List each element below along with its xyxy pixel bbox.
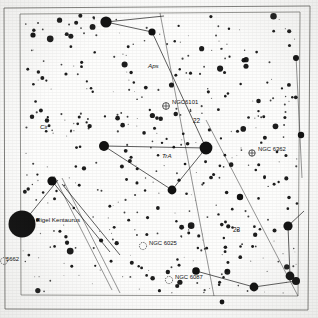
- field-star: [266, 81, 268, 83]
- bright-star: [30, 32, 35, 37]
- field-star: [47, 202, 48, 203]
- field-star: [108, 217, 109, 218]
- constellation-label-aps: Aps: [147, 62, 159, 69]
- bright-star: [283, 221, 292, 230]
- field-star: [277, 261, 279, 263]
- field-star: [23, 250, 24, 251]
- field-star: [224, 58, 226, 60]
- constellation-label-cir: Cir: [40, 123, 49, 130]
- field-star: [110, 260, 113, 263]
- field-star: [166, 43, 168, 45]
- field-star: [211, 50, 212, 51]
- field-star: [120, 165, 124, 169]
- field-star: [87, 124, 91, 128]
- field-star: [211, 98, 212, 99]
- field-star: [217, 25, 219, 27]
- field-star: [78, 184, 81, 187]
- field-star: [115, 116, 120, 121]
- field-star: [23, 190, 27, 194]
- field-star: [260, 141, 262, 143]
- field-star: [55, 190, 57, 192]
- dso-label-ngc6025: NGC 6025: [149, 240, 178, 246]
- field-star: [125, 178, 128, 181]
- dso-label-ngc5662: 5662: [6, 256, 19, 262]
- field-star: [124, 149, 128, 153]
- field-star: [45, 79, 47, 81]
- field-star: [273, 183, 276, 186]
- field-star: [122, 62, 128, 68]
- field-star: [270, 13, 276, 19]
- field-star: [40, 233, 41, 234]
- sky-map-canvas: ApsTrACirNGC6101NGC 6362NGC 6025NGC 6087…: [0, 0, 318, 318]
- field-star: [226, 44, 227, 45]
- field-star: [68, 24, 70, 26]
- field-star: [26, 187, 29, 190]
- field-star: [130, 261, 134, 265]
- field-star: [128, 89, 130, 91]
- field-star: [73, 130, 74, 131]
- field-star: [67, 248, 74, 255]
- field-star: [128, 124, 129, 125]
- field-star: [120, 123, 125, 128]
- field-star: [53, 245, 56, 248]
- field-star: [189, 210, 191, 212]
- field-star: [32, 28, 35, 31]
- field-star: [70, 265, 73, 268]
- field-star: [36, 111, 38, 113]
- field-star: [43, 60, 45, 62]
- field-star: [279, 19, 280, 20]
- field-star: [58, 230, 61, 233]
- field-star: [75, 182, 76, 183]
- field-star: [190, 109, 191, 110]
- field-star: [30, 114, 34, 118]
- field-star: [212, 173, 215, 176]
- field-star: [179, 68, 181, 70]
- field-star: [245, 210, 247, 212]
- field-star: [134, 91, 135, 92]
- bright-star: [47, 176, 56, 185]
- field-star: [145, 233, 148, 236]
- field-star: [33, 50, 34, 51]
- field-star: [158, 192, 159, 193]
- field-star: [38, 257, 39, 258]
- field-star: [272, 97, 274, 99]
- field-star: [166, 270, 170, 274]
- field-star: [127, 219, 130, 222]
- field-star: [68, 34, 73, 39]
- field-star: [64, 72, 67, 75]
- field-star: [260, 116, 262, 118]
- field-star: [73, 123, 74, 124]
- field-star: [279, 161, 280, 162]
- field-star: [189, 72, 192, 75]
- bright-star: [292, 277, 300, 285]
- field-star: [264, 292, 265, 293]
- field-star: [169, 82, 174, 87]
- field-star: [51, 88, 52, 89]
- field-star: [294, 95, 298, 99]
- field-star: [65, 32, 69, 36]
- field-star: [267, 186, 268, 187]
- field-star: [140, 266, 143, 269]
- field-star: [149, 109, 151, 111]
- field-star: [221, 273, 223, 275]
- field-star: [293, 248, 294, 249]
- field-star: [37, 70, 40, 73]
- field-star: [108, 205, 111, 208]
- field-star: [277, 181, 279, 183]
- field-star: [165, 138, 167, 140]
- field-star: [133, 81, 135, 83]
- field-star: [247, 290, 249, 292]
- field-star: [257, 197, 260, 200]
- field-star: [272, 30, 275, 33]
- field-star: [69, 177, 70, 178]
- field-star: [37, 180, 38, 181]
- field-star: [35, 199, 37, 201]
- field-star: [292, 265, 294, 267]
- field-star: [64, 263, 65, 264]
- field-star: [35, 288, 40, 293]
- field-star: [80, 61, 83, 64]
- field-star: [227, 92, 230, 95]
- field-star: [145, 177, 146, 178]
- field-star: [31, 49, 33, 51]
- field-star: [181, 139, 182, 140]
